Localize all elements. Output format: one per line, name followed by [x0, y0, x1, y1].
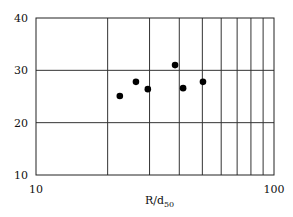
y-tick-labels: 10203040 [14, 12, 28, 182]
data-point [180, 85, 187, 92]
data-point [117, 93, 124, 100]
x-tick-label: 100 [264, 183, 285, 196]
x-tick-label: 10 [29, 183, 43, 196]
data-point [200, 79, 207, 86]
data-point [133, 79, 140, 86]
y-tick-label: 10 [14, 169, 28, 182]
data-point [145, 86, 152, 93]
data-point [172, 62, 179, 69]
scatter-chart: 10203040 10100 R/d50 [0, 0, 293, 217]
x-axis-label-subscript: 50 [164, 200, 174, 209]
plot-frame [36, 18, 274, 175]
y-tick-label: 20 [14, 117, 28, 130]
x-axis-label: R/d50 [145, 194, 174, 209]
y-tick-label: 30 [14, 64, 28, 77]
y-tick-label: 40 [14, 12, 28, 25]
data-points [117, 62, 207, 99]
grid-lines [36, 18, 274, 175]
